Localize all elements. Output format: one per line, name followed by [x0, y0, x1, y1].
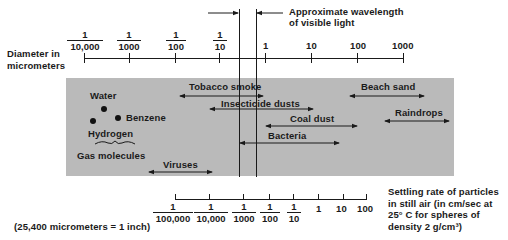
label-raindrops: Raindrops: [395, 107, 443, 118]
hydrogen-dot: [90, 118, 96, 124]
bottom-axis-label-line1: Settling rate of particles: [388, 186, 499, 198]
label-gas-molecules: Gas molecules: [77, 150, 145, 161]
label-water: Water: [90, 90, 117, 101]
tick-denominator: 100,000: [153, 212, 193, 224]
tick-numerator: 1: [194, 202, 228, 212]
bottom-tick-label: 10: [336, 203, 347, 214]
tick-numerator: 1: [260, 202, 280, 212]
bottom-tick-label: 1 100,000: [153, 202, 193, 224]
bottom-tick-label: 1 10,000: [194, 202, 228, 224]
tick-denominator: 100: [260, 212, 280, 224]
label-insecticide-dusts: Insecticide dusts: [221, 98, 300, 109]
bottom-axis-line: [175, 199, 367, 200]
bottom-tick: [269, 194, 270, 200]
label-benzene: Benzene: [126, 112, 166, 123]
bottom-tick-label: 1 10: [287, 202, 301, 224]
label-viruses: Viruses: [163, 159, 198, 170]
tick-numerator: 1: [153, 202, 193, 212]
bottom-tick: [343, 194, 344, 200]
label-tobacco-smoke: Tobacco smoke: [189, 81, 261, 92]
bottom-axis-label-line4: density 2 g/cm³): [388, 221, 499, 233]
footnote-conversion: (25,400 micrometers = 1 inch): [14, 221, 150, 232]
benzene-dot: [115, 115, 121, 121]
bottom-tick: [366, 194, 367, 200]
bottom-tick-label: 1 100: [260, 202, 280, 224]
bottom-tick: [175, 194, 176, 200]
bottom-tick: [318, 194, 319, 200]
label-coal-dust: Coal dust: [290, 113, 334, 124]
tick-denominator: 1000: [232, 212, 256, 224]
label-hydrogen: Hydrogen: [88, 128, 133, 139]
bottom-tick-label: 100: [357, 203, 373, 214]
tick-denominator: 10,000: [194, 212, 228, 224]
label-beach-sand: Beach sand: [361, 81, 415, 92]
tick-numerator: 1: [232, 202, 256, 212]
water-dot: [101, 106, 107, 112]
label-bacteria: Bacteria: [268, 130, 306, 141]
bottom-tick: [293, 194, 294, 200]
bottom-axis-label-line2: in still air (in cm/sec at: [388, 198, 499, 210]
tick-denominator: 10: [287, 212, 301, 224]
tick-numerator: 1: [287, 202, 301, 212]
bottom-axis-label-line3: 25° C for spheres of: [388, 209, 499, 221]
bottom-tick: [243, 194, 244, 200]
bottom-tick-label: 1 1000: [232, 202, 256, 224]
bottom-axis-label: Settling rate of particles in still air …: [388, 186, 499, 232]
bottom-tick: [209, 194, 210, 200]
bottom-tick-label: 1: [316, 203, 321, 214]
